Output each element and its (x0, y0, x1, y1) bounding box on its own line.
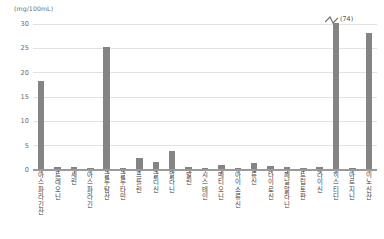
x-axis-label: 글리신 (151, 172, 160, 194)
x-axis-label: 아스파라긴산 (37, 172, 46, 216)
x-axis-ticks (33, 24, 377, 170)
y-axis-tick-label: 30 (21, 20, 29, 28)
x-axis-label: 라이신 (315, 172, 324, 194)
x-axis-label: 글루탐산 (102, 172, 111, 202)
y-axis-tick-label: 10 (21, 117, 29, 125)
x-axis-label: 아이소류신 (233, 172, 242, 209)
x-axis-label: 세린 (69, 172, 78, 187)
x-axis-label: 아르지닌 (348, 172, 357, 202)
y-axis-unit-caption: (mg/100mL) (14, 5, 53, 12)
x-axis-label: 타이로신 (266, 172, 275, 202)
x-axis-label: 시스테인 (201, 172, 210, 202)
bar-value-annotation: (74) (340, 15, 353, 23)
plot-area: 051015202530 (74) (33, 24, 377, 170)
y-axis-tick-label: 5 (25, 142, 29, 150)
x-axis-label: 트레오닌 (53, 172, 62, 202)
x-axis-label: 발린 (184, 172, 193, 187)
x-axis-label: 이노신산 (364, 172, 373, 202)
y-axis-tick-label: 15 (21, 93, 29, 101)
x-axis-label: 류신 (250, 172, 259, 187)
x-axis-label: 트립토판 (299, 172, 308, 202)
x-axis-label: 글루타민 (119, 172, 128, 202)
x-axis-label: 아스파라긴 (86, 172, 95, 209)
x-axis-line (33, 169, 377, 170)
x-axis-label: 알라닌 (168, 172, 177, 194)
y-axis-tick-label: 20 (21, 69, 29, 77)
x-axis-label: 히스티딘 (332, 172, 341, 202)
x-axis-label: 페닐알라닌 (282, 172, 291, 209)
x-axis-label: 프롤린 (135, 172, 144, 194)
x-axis-label: 메티오닌 (217, 172, 226, 202)
y-axis-tick-label: 0 (25, 166, 29, 174)
x-axis-labels: 아스파라긴산트레오닌세린아스파라긴글루탐산글루타민프롤린글리신알라닌발린시스테인… (33, 172, 377, 236)
y-axis-tick-label: 25 (21, 44, 29, 52)
bar-chart: (mg/100mL) 051015202530 (74) 아스파라긴산트레오닌세… (0, 0, 384, 239)
